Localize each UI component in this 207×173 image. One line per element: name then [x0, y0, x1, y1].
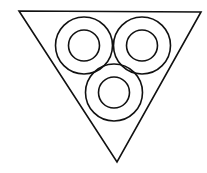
- ring-bottom: [86, 64, 143, 121]
- ring-cluster: [56, 17, 171, 121]
- inner-circle: [69, 30, 100, 61]
- outer-circle: [86, 64, 143, 121]
- inner-circle: [127, 30, 158, 61]
- inner-circle: [99, 77, 130, 108]
- triangle-rings-diagram: [0, 0, 207, 173]
